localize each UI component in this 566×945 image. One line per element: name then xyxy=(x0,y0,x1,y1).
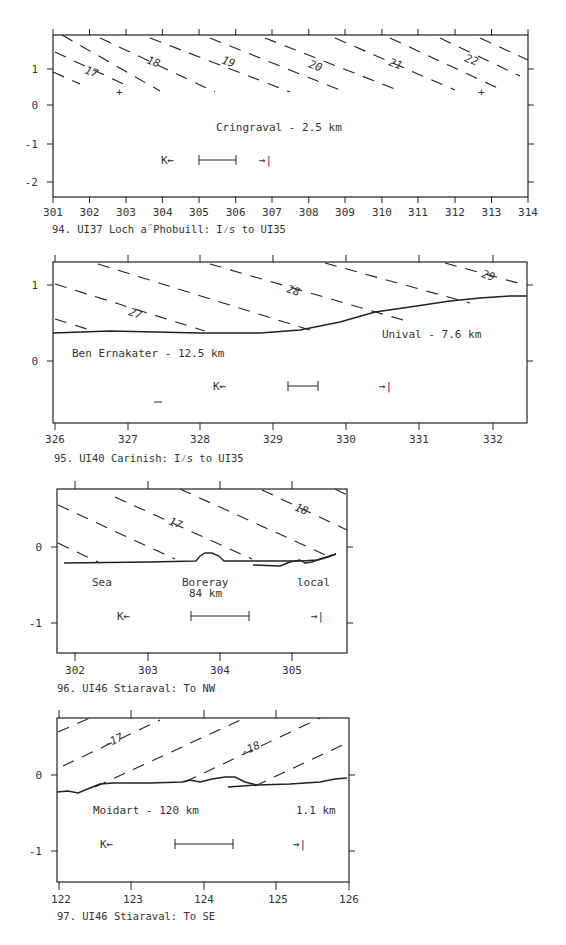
panel-94: 17 18 19 20 21 22 + + Cringraval - 2.5 k… xyxy=(25,29,539,235)
right-limit-arrow-icon: →| xyxy=(311,610,324,623)
x-tick-label: 314 xyxy=(518,206,538,219)
annotation-local-distance: 1.1 km xyxy=(296,804,336,817)
left-limit-arrow-icon: K← xyxy=(161,154,175,167)
x-tick-label: 126 xyxy=(339,893,359,906)
x-tick-label: 312 xyxy=(445,206,465,219)
panel-96: 17 18 Sea Boreray 84 km local K← →| 302 … xyxy=(29,481,353,694)
x-tick-label: 309 xyxy=(335,206,355,219)
x-tick-label: 331 xyxy=(409,433,429,446)
x-tick-label: 306 xyxy=(226,206,246,219)
annotation-moidart: Moidart - 120 km xyxy=(93,804,199,817)
x-tick-label: 302 xyxy=(80,206,100,219)
x-tick-label: 311 xyxy=(408,206,428,219)
isoline-label-20: 20 xyxy=(307,58,324,75)
x-tick-label: 122 xyxy=(51,893,71,906)
x-tick-label: 125 xyxy=(268,893,288,906)
x-tick-label: 308 xyxy=(299,206,319,219)
isoline-label-22: 22 xyxy=(463,52,480,69)
y-tick-label: -2 xyxy=(25,176,38,189)
x-tick-label: 330 xyxy=(336,433,356,446)
x-tick-label: 301 xyxy=(43,206,63,219)
x-tick-label: 307 xyxy=(262,206,282,219)
left-limit-arrow-icon: K← xyxy=(117,610,131,623)
x-tick-label: 124 xyxy=(194,893,214,906)
left-limit-arrow-icon: K← xyxy=(100,838,114,851)
y-tick-label: -1 xyxy=(29,845,42,858)
left-limit-arrow-icon: K← xyxy=(213,380,227,393)
panel-97: -17 -18 Moidart - 120 km 1.1 km K← →| 12… xyxy=(29,710,359,922)
x-tick-label: 327 xyxy=(118,433,138,446)
local-horizon-97 xyxy=(228,785,257,787)
isoline-label-17: 17 xyxy=(83,64,100,81)
figure-caption-95: 95. UI40 Carinish: I⁄s to UI35 xyxy=(54,452,244,464)
isolines-97 xyxy=(58,718,349,787)
figure-caption-96: 96. UI46 Stiaraval: To NW xyxy=(57,682,216,694)
x-tick-label: 305 xyxy=(282,664,302,677)
scale-bar-95: K← →| xyxy=(213,380,392,393)
x-tick-label: 123 xyxy=(123,893,143,906)
figure-sheet: 17 18 19 20 21 22 + + Cringraval - 2.5 k… xyxy=(0,0,566,945)
marker-plus: + xyxy=(478,86,485,99)
x-tick-label: 313 xyxy=(482,206,502,219)
panel-95: 27 28 29 Ben Ernakater - 12.5 km Unival … xyxy=(31,255,533,464)
isolines-94 xyxy=(53,35,528,92)
isoline-label-27: 27 xyxy=(127,305,144,322)
right-limit-arrow-icon: →| xyxy=(379,380,392,393)
figure-caption-97: 97. UI46 Stiaraval: To SE xyxy=(57,910,215,922)
x-tick-label: 304 xyxy=(210,664,230,677)
x-tick-label: 332 xyxy=(483,433,503,446)
x-tick-label: 310 xyxy=(372,206,392,219)
annotation-cringraval: Cringraval - 2.5 km xyxy=(216,121,342,134)
x-tick-label: 302 xyxy=(65,664,85,677)
isoline-label-29: 29 xyxy=(480,267,497,283)
y-tick-label: -1 xyxy=(25,138,38,151)
scale-bar-97: K← →| xyxy=(100,838,306,851)
right-limit-arrow-icon: →| xyxy=(293,838,306,851)
x-tick-label: 329 xyxy=(263,433,283,446)
plot-frame-97 xyxy=(57,718,349,882)
x-tick-label: 328 xyxy=(190,433,210,446)
figure-caption-94: 94. UI37 Loch a´Phobuill: I⁄s to UI35 xyxy=(52,223,286,235)
y-tick-label: -1 xyxy=(29,617,42,630)
x-tick-label: 304 xyxy=(153,206,173,219)
x-tick-label: 303 xyxy=(116,206,136,219)
y-tick-label: 0 xyxy=(31,355,38,368)
x-tick-label: 303 xyxy=(138,664,158,677)
isolines-96 xyxy=(58,489,347,563)
x-tick-label: 326 xyxy=(45,433,65,446)
isolines-95 xyxy=(55,263,525,331)
isoline-label-minus18: -18 xyxy=(239,738,263,758)
local-horizon-96 xyxy=(253,554,336,566)
isoline-label-17: 17 xyxy=(167,515,185,532)
annotation-unival: Unival - 7.6 km xyxy=(382,328,482,341)
y-tick-label: 0 xyxy=(35,769,42,782)
y-tick-label: 0 xyxy=(31,99,38,112)
annotation-local: local xyxy=(297,576,330,589)
isoline-label-21: 21 xyxy=(387,56,404,73)
right-limit-arrow-icon: →| xyxy=(259,154,272,167)
isoline-label-28: 28 xyxy=(285,282,302,299)
y-tick-label: 1 xyxy=(31,279,38,292)
scale-bar-96: K← →| xyxy=(117,610,324,623)
isoline-label-minus17: -17 xyxy=(102,730,126,750)
annotation-distance: 84 km xyxy=(189,587,222,600)
scale-bar-94: K← →| xyxy=(161,154,272,167)
isoline-label-18: 18 xyxy=(145,54,162,71)
plot-frame-94 xyxy=(53,35,528,197)
isoline-label-18: 18 xyxy=(293,501,311,518)
annotation-sea: Sea xyxy=(92,576,112,589)
isoline-label-19: 19 xyxy=(220,54,237,71)
y-tick-label: 0 xyxy=(35,541,42,554)
marker-plus: + xyxy=(116,86,123,99)
x-tick-label: 305 xyxy=(189,206,209,219)
annotation-ben-ernakater: Ben Ernakater - 12.5 km xyxy=(72,347,225,360)
y-tick-label: 1 xyxy=(31,63,38,76)
